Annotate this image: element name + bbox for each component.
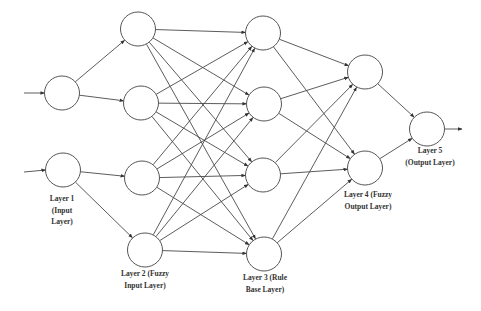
edge-l1-l2 <box>75 40 124 81</box>
edge-l3-l4 <box>279 113 350 158</box>
layer5-label: Layer 5 <box>418 146 443 155</box>
edge-l2-l3 <box>160 184 248 240</box>
layer2-label: Layer 2 (Fuzzy <box>121 269 169 278</box>
layer1-label: (Input <box>52 206 73 215</box>
node-layer3-1 <box>246 16 281 50</box>
edge-l1-l2 <box>79 95 123 101</box>
layer4-label: Output Layer) <box>345 202 392 211</box>
edge-l3-l4 <box>275 84 352 162</box>
node-layer4-1 <box>348 55 383 89</box>
node-layer5-1 <box>410 112 445 146</box>
connection-arrows <box>24 30 462 254</box>
layer4-label: Layer 4 (Fuzzy <box>344 190 392 199</box>
edge-l2-l3 <box>147 44 256 238</box>
edge-l4-l5 <box>380 138 412 158</box>
edge-l3-l4 <box>280 169 347 174</box>
edge-l2-l3 <box>149 42 251 161</box>
layer3-label: Layer 3 (Rule <box>243 273 288 282</box>
edge-l3-l4 <box>279 39 348 66</box>
edge-l3-l4 <box>277 179 351 242</box>
node-layer3-4 <box>247 237 282 271</box>
edge-l3-l4 <box>272 87 356 238</box>
edge-l1-l2 <box>76 182 133 238</box>
layer3-label: Base Layer) <box>246 285 285 294</box>
layer2-label: Input Layer) <box>124 281 166 290</box>
edge-l2-l3 <box>157 187 249 244</box>
edge-l2-l3 <box>155 30 245 33</box>
edge-l2-l3 <box>158 103 246 104</box>
layer1-label: Layer 1 <box>50 194 75 203</box>
edge-l2-l3 <box>153 48 254 234</box>
node-layer2-3 <box>125 161 160 195</box>
network-nodes <box>45 12 445 271</box>
edge-l2-l3 <box>162 251 246 254</box>
node-layer1-1 <box>45 76 80 110</box>
edge-l2-l3 <box>159 175 245 177</box>
node-layer3-2 <box>247 87 282 121</box>
input-arrow <box>24 170 46 172</box>
node-layer3-3 <box>246 158 281 192</box>
edge-l2-l3 <box>157 113 249 169</box>
node-layer1-2 <box>46 153 81 187</box>
layer5-label: (Output Layer) <box>405 158 455 167</box>
edge-l4-l5 <box>378 84 414 117</box>
layer1-label: Layer) <box>51 217 73 226</box>
node-layer4-2 <box>348 151 383 185</box>
neuro-fuzzy-network-diagram: Layer 1(InputLayer)Layer 2 (FuzzyInput L… <box>0 0 481 311</box>
node-layer2-2 <box>124 86 159 120</box>
edge-l3-l4 <box>281 77 349 98</box>
edge-l1-l2 <box>80 172 124 176</box>
edge-l2-l3 <box>152 117 253 241</box>
node-layer2-1 <box>121 12 156 46</box>
node-layer2-4 <box>128 233 163 267</box>
